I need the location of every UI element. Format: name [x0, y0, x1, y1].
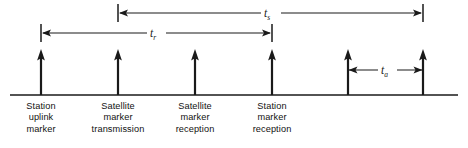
timing-diagram-figure: ts tr ta Station uplink — [0, 0, 468, 148]
event-label-line: marker — [0, 124, 82, 135]
event-label-satellite-marker-transmission: Satellite marker transmission — [77, 101, 159, 135]
marker-satellite-transmission — [114, 49, 122, 95]
event-label-line: marker — [231, 112, 313, 123]
dimension-ts: ts — [118, 4, 423, 22]
dimension-tr: tr — [41, 24, 272, 42]
marker-group — [37, 49, 427, 95]
dimension-subscript: s — [267, 13, 270, 22]
event-label-line: Station — [231, 101, 313, 112]
event-label-line: reception — [231, 124, 313, 135]
event-label-line: transmission — [77, 124, 159, 135]
event-label-station-uplink-marker: Station uplink marker — [0, 101, 82, 135]
marker-station-uplink — [37, 49, 45, 95]
event-label-line: marker — [154, 112, 236, 123]
event-label-station-marker-reception: Station marker reception — [231, 101, 313, 135]
dimension-subscript: r — [153, 33, 156, 42]
event-label-line: Satellite — [77, 101, 159, 112]
event-label-line: uplink — [0, 112, 82, 123]
event-label-line: reception — [154, 124, 236, 135]
event-label-satellite-marker-reception: Satellite marker reception — [154, 101, 236, 135]
event-label-line: Station — [0, 101, 82, 112]
marker-unlabeled-5 — [344, 49, 352, 95]
marker-station-reception — [268, 49, 276, 95]
dimension-ta: ta — [349, 61, 423, 79]
marker-satellite-reception — [191, 49, 199, 95]
event-label-line: marker — [77, 112, 159, 123]
dimension-subscript: a — [384, 70, 388, 79]
event-label-line: Satellite — [154, 101, 236, 112]
marker-unlabeled-6 — [419, 49, 427, 95]
